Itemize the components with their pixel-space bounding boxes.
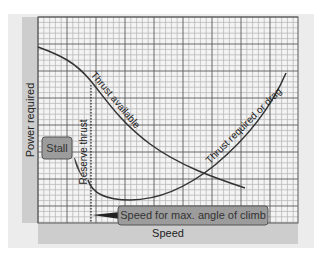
reserve-thrust-label: Reserve thrust — [78, 119, 89, 184]
max-climb-label: Speed for max. angle of climb — [120, 209, 266, 221]
plot-area: Reserve thrust Thrust available Thrust r… — [0, 0, 323, 260]
stall-label: Stall — [46, 142, 67, 154]
